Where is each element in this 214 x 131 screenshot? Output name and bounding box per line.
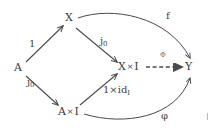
arrow-label-f: f xyxy=(166,10,170,21)
arrow-label-one-times-id: 1×idI xyxy=(103,84,130,97)
j-sub: 0 xyxy=(30,81,34,89)
arrow-x-to-xxi xyxy=(76,28,117,62)
j-sub: 0 xyxy=(103,40,107,48)
arrow-label-j-zero-upper: j0 xyxy=(100,35,108,48)
node-axi-tail: I xyxy=(74,105,79,118)
arrow-label-j-zero-lower: j0 xyxy=(27,76,35,89)
node-label-a: A xyxy=(14,61,22,74)
node-xxi-tail: I xyxy=(134,60,139,73)
diagram-canvas xyxy=(0,0,214,131)
arrow-label-phi: φ xyxy=(161,110,168,121)
arrow-label-one: 1 xyxy=(29,38,35,49)
node-label-x: X xyxy=(65,11,73,24)
node-label-y: Y xyxy=(185,60,193,73)
one-times-id-base: 1×id xyxy=(103,84,127,95)
node-label-axi: A×I xyxy=(58,105,79,118)
page-edge-speck xyxy=(207,113,208,120)
node-label-xxi: X×I xyxy=(118,60,139,73)
commutative-diagram: A X A×I X×I Y 1 j0 j0 1×idI Φ f φ xyxy=(0,0,214,131)
arrow-x-to-y-curve xyxy=(78,13,190,58)
arrow-axi-to-y-curve xyxy=(84,78,190,119)
one-times-id-sub: I xyxy=(127,89,130,97)
arrow-label-capital-phi: Φ xyxy=(160,51,166,59)
node-xxi-base: X xyxy=(118,60,126,73)
